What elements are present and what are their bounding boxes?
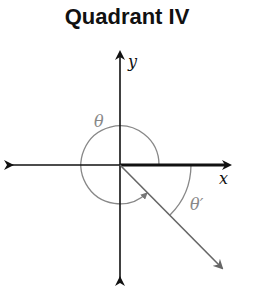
theta-prime-label: θ′ [190,195,204,214]
theta-label: θ [94,112,104,131]
y-axis-label: y [127,52,138,71]
quadrant-diagram: y x θ θ′ [0,0,254,301]
x-axis-label: x [219,169,228,188]
reference-arc [170,165,191,215]
terminal-ray [120,165,222,268]
